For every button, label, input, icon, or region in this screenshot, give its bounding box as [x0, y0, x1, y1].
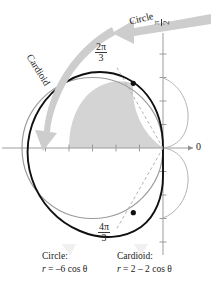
intersection-point-lower	[131, 210, 136, 215]
axis-label-polar-zero: 0	[196, 141, 201, 152]
caption-circle-equation-rest: = –6 cos θ	[46, 264, 88, 274]
caption-cardioid-equation: r = 2 – 2 cos θ	[117, 263, 172, 276]
caption-circle: Circle: r = –6 cos θ	[42, 250, 87, 276]
caption-circle-title: Circle:	[42, 250, 87, 263]
polar-figure: Circle Cardioid 2π 3 4π 3 π 2 0 Circle: …	[0, 0, 211, 288]
axis-label-pi-over-2: π 2	[152, 19, 171, 26]
angle-label-4pi-over-3: 4π 3	[98, 222, 110, 243]
caption-circle-equation: r = –6 cos θ	[42, 263, 87, 276]
axis-label-pi-over-2-numerator: π	[152, 19, 161, 26]
angle-label-4pi-over-3-denominator: 3	[98, 232, 110, 243]
caption-cardioid-equation-rest: = 2 – 2 cos θ	[121, 264, 172, 274]
intersection-point-upper	[131, 81, 136, 86]
shaded-region	[69, 78, 163, 149]
caption-cardioid: Cardioid: r = 2 – 2 cos θ	[117, 250, 172, 276]
angle-label-2pi-over-3-denominator: 3	[95, 52, 107, 63]
angle-label-2pi-over-3: 2π 3	[95, 42, 107, 63]
caption-cardioid-title: Cardioid:	[117, 250, 172, 263]
angle-label-2pi-over-3-numerator: 2π	[95, 42, 107, 52]
angle-label-4pi-over-3-numerator: 4π	[98, 222, 110, 232]
caption-block: Circle: r = –6 cos θ Cardioid: r = 2 – 2…	[0, 246, 211, 288]
axis-label-pi-over-2-denominator: 2	[161, 19, 171, 26]
